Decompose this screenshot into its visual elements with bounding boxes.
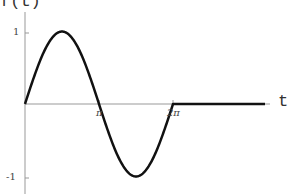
ytick-label-neg1: -1 xyxy=(6,171,16,182)
xtick-label-pi: π xyxy=(96,107,103,118)
ytick-label-1: 1 xyxy=(13,26,19,37)
y-axis-label: f(t) xyxy=(0,0,41,11)
plot-area xyxy=(0,0,296,194)
xtick-label-2pi: 2π xyxy=(167,107,180,118)
x-axis-label: t xyxy=(278,92,288,111)
